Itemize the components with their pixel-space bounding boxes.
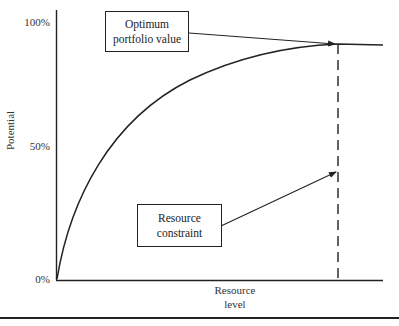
constraint-callout-line1: Resource — [138, 211, 221, 226]
optimum-callout-box: Optimum portfolio value — [105, 11, 189, 52]
chart-canvas — [0, 0, 399, 326]
x-axis-label: Resource level — [195, 283, 275, 311]
constraint-arrow — [221, 172, 336, 226]
optimum-callout-line2: portfolio value — [106, 32, 188, 47]
x-axis-label-line2: level — [195, 297, 275, 311]
y-axis-label: Potential — [4, 111, 16, 150]
y-tick-100: 100% — [16, 16, 50, 28]
constraint-callout-line2: constraint — [138, 226, 221, 241]
optimum-callout-line1: Optimum — [106, 17, 188, 32]
y-tick-0: 0% — [16, 273, 50, 285]
constraint-callout-box: Resource constraint — [137, 204, 222, 247]
optimum-arrow — [189, 33, 335, 44]
y-tick-50: 50% — [16, 140, 50, 152]
x-axis-label-line1: Resource — [195, 283, 275, 297]
